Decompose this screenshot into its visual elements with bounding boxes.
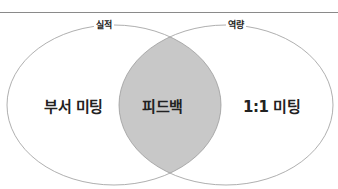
left-region-label: 부서 미팅 — [44, 95, 103, 116]
intersection-label: 피드백 — [142, 95, 183, 116]
right-set-label: 역량 — [226, 20, 246, 30]
left-set-label: 실적 — [94, 20, 114, 30]
right-region-label: 1:1 미팅 — [243, 95, 300, 116]
